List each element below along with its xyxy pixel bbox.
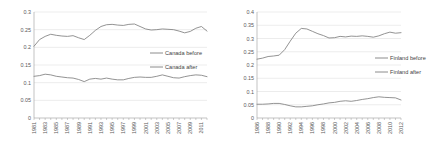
finland-chart-svg: 00.050.10.150.20.250.30.350.419861988199… (223, 0, 447, 145)
y-axis-tick-label-0.4: 0.4 (247, 9, 255, 15)
y-axis-tick-label-0.2: 0.2 (247, 62, 255, 68)
x-axis-tick-label-2012: 2012 (398, 122, 404, 134)
x-axis-tick-label-1993: 1993 (98, 122, 104, 134)
x-axis-tick-label-1998: 1998 (320, 122, 326, 134)
legend-label-canada-after: Canada after (165, 64, 197, 70)
x-axis-tick-label-1985: 1985 (53, 122, 59, 134)
x-axis-tick-label-1992: 1992 (287, 122, 293, 134)
y-axis-tick-label-0.05: 0.05 (21, 97, 32, 103)
x-axis-tick-label-1988: 1988 (265, 122, 271, 134)
y-axis-tick-label-0.15: 0.15 (21, 62, 32, 68)
series-line-canada-before (34, 24, 207, 46)
series-line-finland-before (257, 28, 401, 59)
y-axis-tick-label-0.15: 0.15 (244, 75, 255, 81)
y-axis-tick-label-0.25: 0.25 (21, 27, 32, 33)
legend-label-finland-after: Finland after (390, 69, 421, 75)
two-panel-line-chart-figure: 00.050.10.150.20.250.3198119831985198719… (0, 0, 447, 145)
x-axis-tick-label-2004: 2004 (354, 122, 360, 134)
x-axis-tick-label-2011: 2011 (198, 122, 204, 134)
y-axis-tick-label-0.2: 0.2 (24, 44, 32, 50)
x-axis-tick-label-2002: 2002 (343, 122, 349, 134)
legend-label-finland-before: Finland before (390, 55, 426, 61)
x-axis-tick-label-1989: 1989 (76, 122, 82, 134)
x-axis-tick-label-1995: 1995 (109, 122, 115, 134)
y-axis-tick-label-0: 0 (251, 115, 254, 121)
y-axis-tick-label-0.1: 0.1 (247, 89, 255, 95)
x-axis-tick-label-2007: 2007 (176, 122, 182, 134)
x-axis-tick-label-1990: 1990 (276, 122, 282, 134)
legend-label-canada-before: Canada before (165, 50, 202, 56)
x-axis-tick-label-2001: 2001 (143, 122, 149, 134)
y-axis-tick-label-0.25: 0.25 (244, 49, 255, 55)
y-axis-tick-label-0.3: 0.3 (247, 36, 255, 42)
x-axis-tick-label-2005: 2005 (165, 122, 171, 134)
x-axis-tick-label-2006: 2006 (365, 122, 371, 134)
x-axis-tick-label-2008: 2008 (376, 122, 382, 134)
y-axis-tick-label-0: 0 (28, 115, 31, 121)
series-line-canada-after (34, 74, 207, 81)
x-axis-tick-label-1999: 1999 (131, 122, 137, 134)
x-axis-tick-label-2000: 2000 (332, 122, 338, 134)
y-axis-tick-label-0.1: 0.1 (24, 80, 32, 86)
canada-chart-panel: 00.050.10.150.20.250.3198119831985198719… (0, 0, 223, 145)
canada-chart-svg: 00.050.10.150.20.250.3198119831985198719… (0, 0, 223, 145)
x-axis-tick-label-1981: 1981 (31, 122, 37, 134)
x-axis-tick-label-1986: 1986 (254, 122, 260, 134)
x-axis-tick-label-1996: 1996 (309, 122, 315, 134)
x-axis-tick-label-1987: 1987 (64, 122, 70, 134)
x-axis-tick-label-1994: 1994 (298, 122, 304, 134)
x-axis-tick-label-2003: 2003 (154, 122, 160, 134)
x-axis-tick-label-1983: 1983 (42, 122, 48, 134)
x-axis-tick-label-1997: 1997 (120, 122, 126, 134)
finland-chart-panel: 00.050.10.150.20.250.30.350.419861988199… (223, 0, 447, 145)
y-axis-tick-label-0.05: 0.05 (244, 102, 255, 108)
series-line-finland-after (257, 97, 401, 107)
y-axis-tick-label-0.35: 0.35 (244, 22, 255, 28)
x-axis-tick-label-2010: 2010 (387, 122, 393, 134)
x-axis-tick-label-2009: 2009 (187, 122, 193, 134)
x-axis-tick-label-1991: 1991 (87, 122, 93, 134)
y-axis-tick-label-0.3: 0.3 (24, 9, 32, 15)
